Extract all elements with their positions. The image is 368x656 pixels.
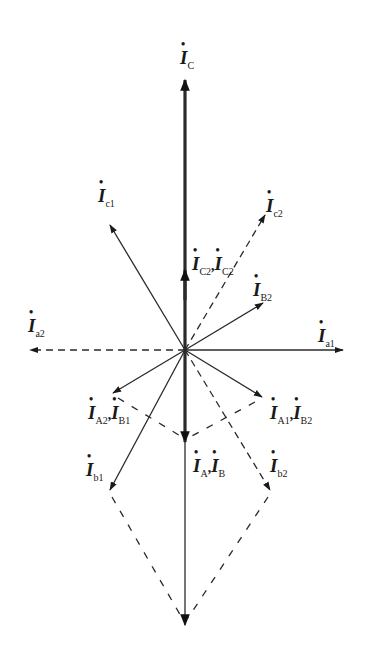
label-ib2: Ib2 — [270, 456, 287, 479]
phasor-ic1-small — [110, 225, 185, 350]
label-ib1: Ib1 — [86, 460, 103, 483]
label-ia2: Ia2 — [28, 316, 45, 339]
label-iA-iB: IA,IB — [193, 456, 225, 479]
phasor-diagram — [0, 0, 368, 656]
phasor-ia1-ib2 — [185, 350, 262, 397]
label-ic1: Ic1 — [98, 186, 115, 209]
label-iB2: IB2 — [253, 280, 272, 303]
label-ic: IC — [180, 48, 194, 71]
construction-line-right — [190, 402, 255, 437]
label-ic2: Ic2 — [266, 196, 283, 219]
label-iA2-iB1: IA2,IB1 — [88, 403, 130, 426]
phasor-ib2 — [185, 303, 263, 350]
construction-line-bottom-left — [112, 497, 182, 618]
construction-line-bottom-right — [188, 497, 268, 618]
label-iC2-iC2: IC2,IC2 — [192, 254, 234, 277]
label-ia1: Ia1 — [318, 326, 335, 349]
label-iA1-iB2: IA1,IB2 — [270, 403, 312, 426]
